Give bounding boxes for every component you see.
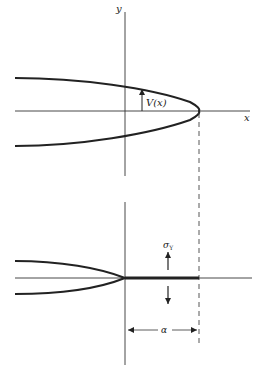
stress-label: σY [163,240,174,251]
y-axis-label: y [115,3,122,14]
crack-diagram: y x V(x) σY α [0,0,271,376]
x-axis-label: x [244,112,250,123]
upper-figure: y x V(x) [15,3,250,176]
dimension-label: α [161,325,167,335]
crack-tip-lobe [15,261,125,294]
lower-figure: σY α [15,202,252,365]
crack-profile-curve [15,78,199,146]
displacement-label: V(x) [146,97,167,108]
